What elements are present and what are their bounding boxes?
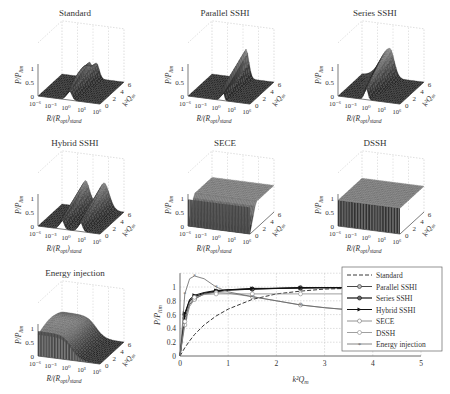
y-tick-label: 2 xyxy=(263,225,267,233)
surface-plot-dssh: DSSH00.5110⁻⁶10⁻³10⁰10³10⁶0246P/PlimR/(R… xyxy=(300,130,450,260)
plot-title: Series SSHI xyxy=(300,8,450,18)
x-tick-label: 2 xyxy=(275,359,279,368)
x-tick-label: 4 xyxy=(371,359,375,368)
x-axis-label: R/(Ropt)stand xyxy=(45,244,81,254)
y-tick-label: 0 xyxy=(172,352,176,361)
x-tick-label: 10⁻⁶ xyxy=(329,230,341,237)
legend-item-label: Parallel SSHI xyxy=(376,283,418,292)
y-tick-label: 6 xyxy=(278,211,282,219)
x-tick-label: 10⁻⁶ xyxy=(29,360,41,367)
z-tick-label: 0.5 xyxy=(175,79,184,87)
legend-item-label: SECE xyxy=(376,317,395,326)
x-tick-label: 10⁰ xyxy=(61,364,71,371)
y-tick-label: 2 xyxy=(113,225,117,233)
y-tick-label: 0 xyxy=(255,102,259,110)
y-tick-label: 0 xyxy=(405,102,409,110)
x-tick-label: 3 xyxy=(323,359,327,368)
y-tick-label: 4 xyxy=(120,88,124,96)
x-tick-label: 10⁻³ xyxy=(345,102,357,109)
y-tick-label: 0.6 xyxy=(167,311,177,320)
z-tick-label: 1 xyxy=(331,65,335,73)
z-tick-label: 0.5 xyxy=(325,79,334,87)
x-tick-label: 10⁻⁶ xyxy=(329,100,341,107)
legend-item-label: Series SSHI xyxy=(376,294,413,303)
z-tick-label: 1 xyxy=(331,195,335,203)
y-tick-label: 6 xyxy=(428,81,432,89)
x-axis-label: R/(Ropt)stand xyxy=(195,114,231,124)
svg-text:*: * xyxy=(299,302,302,308)
z-tick-label: 1 xyxy=(31,325,35,333)
svg-text:*: * xyxy=(358,341,362,349)
x-tick-label: 10³ xyxy=(227,236,236,243)
y-tick-label: 1 xyxy=(172,283,176,292)
z-tick-label: 0.5 xyxy=(25,79,34,87)
legend-item-label: DSSH xyxy=(376,329,396,338)
z-tick-label: 0.5 xyxy=(325,209,334,217)
y-tick-label: 4 xyxy=(420,218,424,226)
z-tick-label: 1 xyxy=(181,65,185,73)
x-tick-label: 0 xyxy=(178,359,182,368)
y-tick-label: 4 xyxy=(120,218,124,226)
plot-title: Standard xyxy=(0,8,150,18)
z-tick-label: 0.5 xyxy=(25,339,34,347)
x-tick-label: 10⁶ xyxy=(393,238,402,245)
x-tick-label: 10⁻⁶ xyxy=(29,230,41,237)
y-tick-label: 0.2 xyxy=(167,338,177,347)
y-tick-label: 2 xyxy=(413,225,417,233)
plot-title: DSSH xyxy=(300,138,450,148)
x-tick-label: 10⁻³ xyxy=(195,232,207,239)
x-tick-label: 10⁶ xyxy=(93,368,102,375)
surface-plot-sece: SECE00.5110⁻⁶10⁻³10⁰10³10⁶0246P/PlimR/(R… xyxy=(150,130,300,260)
x-tick-label: 10⁻³ xyxy=(345,232,357,239)
x-tick-label: 10⁻³ xyxy=(45,362,57,369)
svg-text:*: * xyxy=(193,273,196,279)
y-tick-label: 2 xyxy=(413,95,417,103)
surface-plot-series: Series SSHI00.5110⁻⁶10⁻³10⁰10³10⁶0246P/P… xyxy=(300,0,450,130)
line-series xyxy=(180,288,349,356)
x-tick-label: 10⁰ xyxy=(361,104,371,111)
surface-plot-hybrid: Hybrid SSHI00.5110⁻⁶10⁻³10⁰10³10⁶0246P/P… xyxy=(0,130,150,260)
y-tick-label: 2 xyxy=(263,95,267,103)
x-tick-label: 10⁶ xyxy=(243,238,252,245)
x-axis-label: R/(Ropt)stand xyxy=(345,244,381,254)
y-tick-label: 4 xyxy=(270,88,274,96)
x-tick-label: 5 xyxy=(419,359,423,368)
line-series xyxy=(180,293,349,356)
z-tick-label: 1 xyxy=(181,195,185,203)
y-tick-label: 2 xyxy=(113,355,117,363)
legend-item-label: Energy injection xyxy=(376,340,426,349)
x-tick-label: 10³ xyxy=(77,106,86,113)
y-tick-label: 4 xyxy=(120,348,124,356)
y-tick-label: 2 xyxy=(113,95,117,103)
z-axis-label: P/Plim xyxy=(314,66,324,85)
x-axis-label: R/(Ropt)stand xyxy=(45,374,81,384)
x-tick-label: 10⁻³ xyxy=(45,232,57,239)
legend: StandardParallel SSHISeries SSHIHybrid S… xyxy=(342,267,442,351)
y-tick-label: 0.8 xyxy=(167,297,177,306)
x-tick-label: 10³ xyxy=(377,106,386,113)
y-tick-label: 0.4 xyxy=(167,324,177,333)
x-axis-label: R/(Ropt)stand xyxy=(195,244,231,254)
y-tick-label: 4 xyxy=(420,88,424,96)
x-tick-label: 10⁶ xyxy=(243,108,252,115)
z-tick-label: 0.5 xyxy=(25,209,34,217)
x-tick-label: 10⁰ xyxy=(211,234,221,241)
x-tick-label: 10⁶ xyxy=(393,108,402,115)
line-series xyxy=(180,294,349,356)
x-axis-label: R/(Ropt)stand xyxy=(345,114,381,124)
z-axis-label: P/Plim xyxy=(14,196,24,215)
svg-text:*: * xyxy=(183,291,186,297)
y-tick-label: 0 xyxy=(105,362,109,370)
line-series xyxy=(180,288,349,356)
x-tick-label: 10⁰ xyxy=(211,104,221,111)
line-chart-panel: 00.20.40.60.81012345k²QmP/Plim******Stan… xyxy=(150,260,450,394)
y-tick-label: 6 xyxy=(278,81,282,89)
plot-title: SECE xyxy=(150,138,300,148)
plot-title: Hybrid SSHI xyxy=(0,138,150,148)
z-axis-label: P/Plim xyxy=(164,66,174,85)
z-tick-label: 1 xyxy=(31,195,35,203)
x-tick-label: 1 xyxy=(226,359,230,368)
x-tick-label: 10⁻³ xyxy=(45,102,57,109)
legend-item-label: Standard xyxy=(376,271,403,280)
x-tick-label: 10⁻⁶ xyxy=(179,230,191,237)
